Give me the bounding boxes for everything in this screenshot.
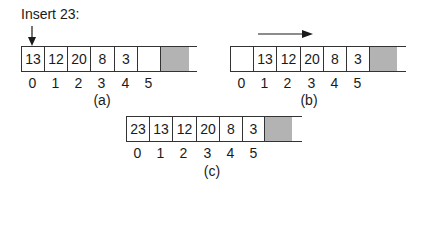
array-index: 4 [219,145,242,161]
array-cell: 12 [276,46,300,72]
array-cell: 20 [300,46,323,72]
array-index: 0 [126,145,149,161]
unused-capacity-block [370,47,397,71]
array-index: 1 [149,145,172,161]
array-cell: 3 [242,116,265,142]
array-cell: 20 [196,116,219,142]
array-cell [230,46,253,72]
array-index: 0 [230,75,253,91]
array-cell: 8 [219,116,242,142]
array-index: 3 [196,145,219,161]
array-index: 4 [323,75,346,91]
array-cell: 12 [172,116,196,142]
panel-caption: (c) [197,163,227,179]
array-index: 2 [172,145,195,161]
array-index: 5 [242,145,265,161]
array-index: 3 [300,75,323,91]
panel-caption: (b) [294,92,324,108]
unused-capacity-block [265,117,292,141]
array-cell: 13 [253,46,276,72]
array-cell: 23 [126,116,149,142]
array-index: 2 [276,75,299,91]
array-index: 1 [253,75,276,91]
array-cell: 13 [149,116,172,142]
array-cell: 3 [346,46,370,72]
array-index: 5 [346,75,369,91]
array-cell: 8 [323,46,346,72]
